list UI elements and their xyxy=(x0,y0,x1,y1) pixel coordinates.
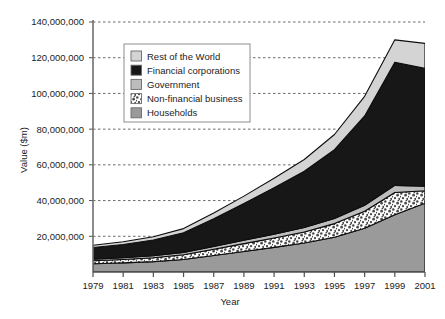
stacked-area-chart: 20,000,00040,000,00060,000,00080,000,000… xyxy=(0,0,445,319)
legend-swatch xyxy=(131,94,142,104)
x-tick-label: 1999 xyxy=(384,280,405,291)
legend-swatch xyxy=(131,51,142,61)
y-tick-label: 20,000,000 xyxy=(36,231,84,242)
x-tick-label: 1995 xyxy=(324,280,345,291)
x-tick-label: 1997 xyxy=(354,280,375,291)
legend-label: Non-financial business xyxy=(147,93,243,104)
x-tick-label: 1991 xyxy=(264,280,285,291)
x-tick-label: 1979 xyxy=(82,280,103,291)
y-tick-label: 40,000,000 xyxy=(36,195,84,206)
y-tick-label: 120,000,000 xyxy=(31,52,84,63)
legend-swatch xyxy=(131,108,142,118)
y-tick-label: 100,000,000 xyxy=(31,88,84,99)
y-tick-label: 80,000,000 xyxy=(36,124,84,135)
x-tick-label: 1989 xyxy=(233,280,254,291)
legend-swatch xyxy=(131,65,142,75)
legend-label: Financial corporations xyxy=(147,65,240,76)
y-tick-label: 140,000,000 xyxy=(31,16,84,27)
chart-legend: Rest of the WorldFinancial corporationsG… xyxy=(124,44,250,122)
legend-label: Government xyxy=(147,79,200,90)
x-tick-label: 1981 xyxy=(113,280,134,291)
legend-swatch xyxy=(131,79,142,89)
y-axis-title: Value ($m) xyxy=(18,127,29,173)
legend-label: Households xyxy=(147,107,197,118)
legend-label: Rest of the World xyxy=(147,51,220,62)
x-tick-label: 2001 xyxy=(414,280,435,291)
y-tick-label: 60,000,000 xyxy=(36,159,84,170)
x-tick-label: 1985 xyxy=(173,280,194,291)
x-tick-label: 1993 xyxy=(294,280,315,291)
x-tick-label: 1987 xyxy=(203,280,224,291)
x-tick-label: 1983 xyxy=(143,280,164,291)
chart-canvas: 20,000,00040,000,00060,000,00080,000,000… xyxy=(0,0,445,319)
x-axis-title: Year xyxy=(220,296,239,307)
